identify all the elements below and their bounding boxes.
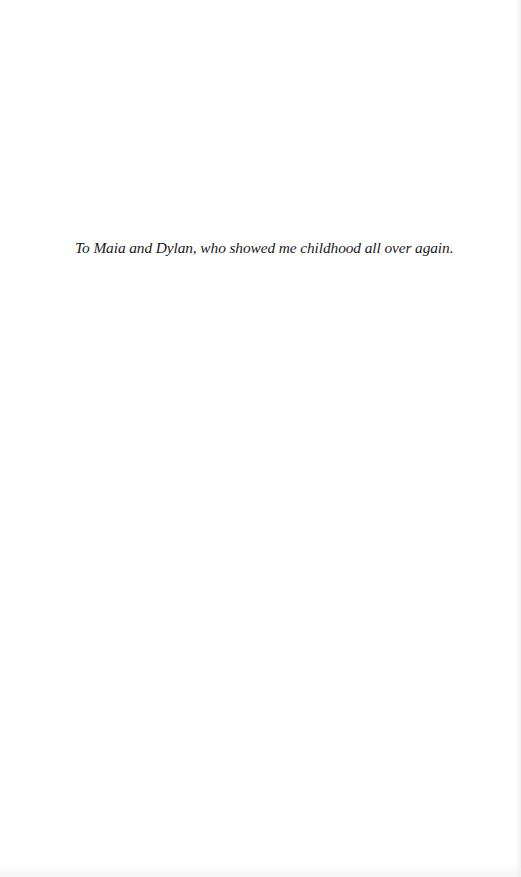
page-bottom-shadow <box>0 863 521 877</box>
dedication-text: To Maia and Dylan, who showed me childho… <box>75 238 453 258</box>
book-page: To Maia and Dylan, who showed me childho… <box>0 0 521 877</box>
page-edge-shadow <box>515 0 521 877</box>
